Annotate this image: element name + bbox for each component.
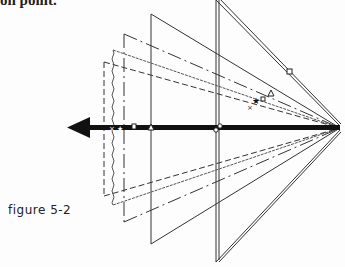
triangle-marker <box>268 90 274 96</box>
svg-text:×: × <box>109 125 115 133</box>
svg-text:★: ★ <box>117 125 123 133</box>
perspective-diagram: ★ × ★ × <box>0 0 345 267</box>
circle-marker <box>214 128 218 132</box>
square-marker <box>287 69 292 74</box>
figure-caption: figure 5-2 <box>8 203 71 217</box>
circle-marker <box>218 124 222 128</box>
star-marker: ★ <box>252 96 260 106</box>
arrow-left <box>67 117 340 138</box>
outer-double-frame <box>216 0 341 262</box>
figure-page: on point. <box>0 0 345 267</box>
x-marker: × <box>247 104 253 112</box>
square-marker <box>132 124 136 129</box>
square-marker <box>261 97 265 101</box>
